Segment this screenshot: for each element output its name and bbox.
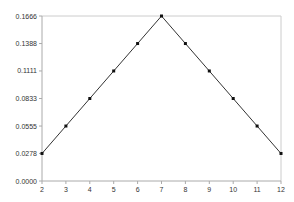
- data-point-marker: [184, 42, 187, 45]
- data-point-marker: [64, 125, 67, 128]
- x-tick-label: 7: [160, 186, 164, 193]
- data-point-marker: [136, 42, 139, 45]
- data-point-marker: [232, 97, 235, 100]
- y-tick-label: 0.0000: [16, 178, 38, 185]
- x-tick-label: 11: [253, 186, 260, 193]
- x-tick-label: 9: [207, 186, 211, 193]
- x-tick-label: 12: [277, 186, 285, 193]
- y-tick-label: 0.0833: [16, 95, 38, 102]
- plot-frame: [42, 16, 281, 181]
- data-point-marker: [88, 97, 91, 100]
- x-tick-label: 6: [136, 186, 140, 193]
- x-axis: 23456789101112: [40, 181, 285, 193]
- line-chart: 0.00000.02780.05550.08330.11110.13880.16…: [0, 0, 294, 202]
- data-point-marker: [208, 69, 211, 72]
- y-axis: 0.00000.02780.05550.08330.11110.13880.16…: [16, 13, 42, 185]
- y-tick-label: 0.1666: [16, 13, 38, 20]
- x-tick-label: 4: [88, 186, 92, 193]
- y-tick-label: 0.0555: [16, 123, 38, 130]
- x-tick-label: 3: [64, 186, 68, 193]
- y-tick-label: 0.1388: [16, 40, 38, 47]
- x-tick-label: 8: [183, 186, 187, 193]
- y-tick-label: 0.0278: [16, 150, 38, 157]
- x-tick-label: 10: [229, 186, 237, 193]
- x-tick-label: 2: [40, 186, 44, 193]
- series-line: [42, 16, 281, 154]
- data-point-marker: [160, 15, 163, 18]
- data-point-marker: [280, 152, 283, 155]
- data-point-marker: [41, 152, 44, 155]
- x-tick-label: 5: [112, 186, 116, 193]
- data-point-marker: [112, 69, 115, 72]
- data-series: [41, 15, 283, 155]
- y-tick-label: 0.1111: [17, 67, 37, 74]
- data-point-marker: [256, 125, 259, 128]
